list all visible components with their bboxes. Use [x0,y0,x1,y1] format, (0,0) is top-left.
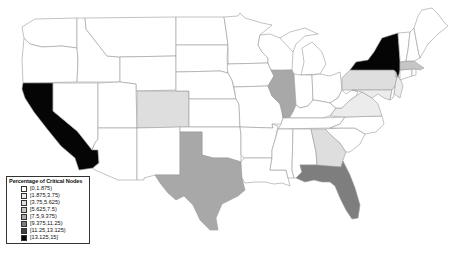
legend-swatch [21,214,27,220]
legend-item: [7.5,9.375) [21,213,87,220]
legend-swatch [21,193,27,199]
state-connecticut [400,69,412,80]
legend-item: [9.375,11.25) [21,220,87,227]
state-kansas [189,99,240,127]
state-indiana [294,74,313,108]
legend-swatch [21,200,27,206]
legend-swatch [21,207,27,213]
state-pennsylvania [342,70,397,90]
legend-item: [5.625,7.5) [21,206,87,213]
legend-item: [11.25,13.125) [21,227,87,234]
state-arizona [92,128,137,180]
legend-swatch [21,228,27,234]
state-florida [296,161,360,219]
state-maine [414,8,448,58]
state-colorado [137,91,189,128]
state-new-mexico [137,127,180,180]
state-north-dakota [176,17,228,45]
legend-swatch [21,186,27,192]
state-rhode-island [412,69,416,76]
legend-item: [3.75,5.625) [21,199,87,206]
state-south-dakota [176,45,228,73]
legend-title: Percentage of Critical Nodes [9,178,87,185]
legend-swatch [21,235,27,241]
legend: Percentage of Critical Nodes [0,1.875) [… [6,176,90,244]
state-massachusetts [400,61,424,70]
state-utah [98,82,137,128]
legend-swatch [21,221,27,227]
state-washington [22,18,77,48]
legend-item: [1.875,3.75) [21,192,87,199]
state-iowa [227,63,274,87]
legend-item: [0,1.875) [21,185,87,192]
legend-item: [13.125,15] [21,234,87,241]
